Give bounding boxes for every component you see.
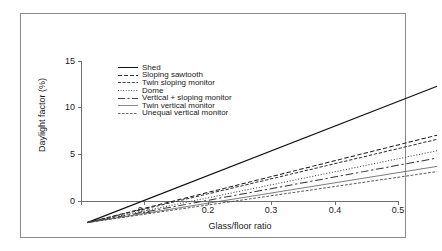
series-line-2 <box>87 139 437 222</box>
legend-item-label: Unequal vertical monitor <box>142 109 228 117</box>
legend-item-2[interactable]: Twin sloping monitor <box>118 79 258 87</box>
legend-line-sample-icon <box>118 110 138 117</box>
legend-line-sample-icon <box>118 95 138 102</box>
series-line-5 <box>87 166 437 222</box>
legend-item-6[interactable]: Unequal vertical monitor <box>118 110 258 118</box>
chart-plot-lines <box>21 14 442 251</box>
series-line-4 <box>87 158 437 223</box>
chart-legend: ShedSloping sawtoothTwin sloping monitor… <box>118 64 258 117</box>
legend-line-sample-icon <box>118 102 138 109</box>
figure-frame: 15 10 5 0 0.1 0.2 0.3 0.4 0.5 Daylight f… <box>20 13 406 238</box>
legend-line-sample-icon <box>118 72 138 79</box>
legend-line-sample-icon <box>118 87 138 94</box>
legend-line-sample-icon <box>118 64 138 71</box>
legend-line-sample-icon <box>118 79 138 86</box>
series-line-3 <box>87 151 437 223</box>
